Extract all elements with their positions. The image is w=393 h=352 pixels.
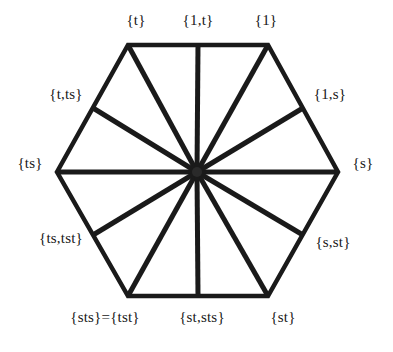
spoke-to-edge-top	[197, 45, 198, 172]
node-label-1s: {1,s}	[314, 87, 347, 102]
node-label-st-sts: {st,sts}	[179, 310, 225, 325]
node-label-ts-tst: {ts,tst}	[39, 231, 83, 246]
node-label-1t: {1,t}	[183, 13, 214, 28]
center-hub	[192, 167, 202, 177]
spoke-to-edge-bottom	[197, 172, 198, 296]
node-label-s: {s}	[353, 156, 374, 171]
node-label-sts-tst: {sts}={tst}	[70, 310, 139, 325]
node-label-1: {1}	[255, 13, 278, 28]
hexagon-diagram: {t} {1,t} {1} {t,ts} {1,s} {ts} {s} {ts,…	[0, 0, 393, 352]
node-label-ts: {ts}	[17, 156, 42, 171]
hexagon-spoke-graphic	[0, 0, 393, 352]
node-label-st: {st}	[270, 310, 295, 325]
node-label-t-ts: {t,ts}	[49, 87, 83, 102]
node-label-s-st: {s,st}	[315, 235, 350, 250]
node-label-t: {t}	[126, 13, 145, 28]
